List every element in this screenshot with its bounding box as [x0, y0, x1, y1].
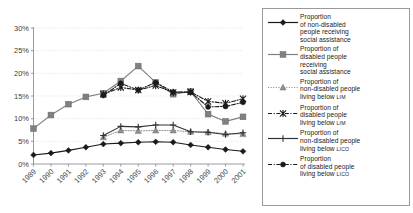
datapoint-nondisabled-social-assistance-1993: [100, 141, 106, 147]
datapoint-nondisabled-lico-1995-plus: [135, 124, 141, 130]
x-tick-label-1996: 1996: [142, 167, 160, 185]
legend-item-nondisabled-social-assistance[interactable]: Proportionof non-disabledpeople receivin…: [266, 13, 406, 43]
legend-label-line: Proportion of: [300, 45, 351, 53]
legend-marker-disabled-lico: [266, 156, 300, 167]
legend-label-line: receiving: [300, 61, 351, 69]
legend-label-abbrev: LICO: [337, 171, 350, 177]
datapoint-disabled-lico-2001: [241, 100, 246, 105]
datapoint-disabled-social-assistance-1992: [83, 94, 89, 100]
legend-label-line: non-disabled people: [300, 85, 360, 93]
legend-marker-nondisabled-lico: [266, 130, 300, 141]
datapoint-disabled-lico-1994-circle: [118, 81, 123, 86]
legend-key-disabled-lim: [266, 108, 300, 119]
legend-label-line: Proportion of: [300, 78, 360, 86]
legend-label-line: non-disabled people: [300, 137, 360, 145]
legend-label-nondisabled-social-assistance: Proportionof non-disabledpeople receivin…: [300, 13, 351, 43]
datapoint-nondisabled-social-assistance-1991-diamond: [66, 148, 72, 154]
datapoint-nondisabled-social-assistance-1999-diamond: [205, 144, 211, 150]
legend-item-disabled-lim[interactable]: Proportion ofdisabled peopleliving below…: [266, 104, 406, 128]
legend-label-line: Proportion: [300, 155, 354, 163]
x-tick-label-1997: 1997: [160, 167, 178, 185]
series-line-disabled-social-assistance: [34, 66, 244, 129]
legend-label-line: disabled people: [300, 111, 347, 119]
legend-label-line: of disabled people: [300, 163, 354, 171]
datapoint-disabled-social-assistance-1989: [31, 126, 37, 132]
datapoint-disabled-lico-1995: [136, 88, 141, 93]
datapoint-disabled-social-assistance-2001: [240, 114, 246, 120]
series-disabled-lico: [101, 80, 246, 109]
datapoint-disabled-lico-1999-circle: [206, 104, 211, 109]
datapoint-disabled-lico-1995-circle: [136, 88, 141, 93]
legend-label-disabled-social-assistance: Proportion ofdisabled peoplereceivingsoc…: [300, 45, 351, 75]
legend-label-line: social assistance: [300, 68, 351, 76]
datapoint-disabled-lico-1996: [153, 80, 158, 85]
legend-label-line: people receiving: [300, 28, 351, 36]
datapoint-disabled-social-assistance-1990: [48, 112, 54, 118]
legend-label-abbrev: LIM: [337, 120, 346, 126]
legend-label-line: Proportion of: [300, 104, 347, 112]
datapoint-disabled-lico-2000: [223, 104, 228, 109]
y-tick-label-5: 5%: [18, 137, 29, 146]
datapoint-disabled-social-assistance-1991-square: [66, 101, 72, 107]
series-nondisabled-social-assistance: [31, 139, 246, 158]
legend-label-line: disabled people: [300, 53, 351, 61]
datapoint-nondisabled-social-assistance-1992-diamond: [83, 144, 89, 150]
datapoint-nondisabled-lico-1994: [118, 123, 124, 129]
datapoint-nondisabled-social-assistance-1997: [170, 139, 176, 145]
legend-label-line: living below LICO: [300, 170, 354, 179]
legend-key-marker-nondisabled-lim: [280, 84, 286, 90]
legend-marker-disabled-lim: [266, 105, 300, 116]
legend-label-abbrev: LICO: [337, 146, 350, 152]
datapoint-nondisabled-social-assistance-2001: [240, 148, 246, 154]
datapoint-nondisabled-social-assistance-1995-diamond: [135, 139, 141, 145]
legend-key-marker-nondisabled-lico: [280, 136, 286, 142]
x-tick-label-1998: 1998: [177, 167, 195, 185]
datapoint-disabled-lico-1999: [206, 104, 211, 109]
series-nondisabled-lim: [100, 127, 246, 139]
datapoint-disabled-social-assistance-1991: [66, 101, 72, 107]
datapoint-nondisabled-social-assistance-1989: [31, 152, 37, 158]
legend-key-disabled-lico: [266, 159, 300, 170]
legend-key-marker-nondisabled-lim-triangle: [280, 84, 286, 90]
legend-key-marker-nondisabled-social-assistance: [280, 20, 286, 26]
legend-key-marker-disabled-lico: [281, 162, 286, 167]
datapoint-nondisabled-social-assistance-1993-diamond: [100, 141, 106, 147]
legend-item-disabled-lico[interactable]: Proportionof disabled peopleliving below…: [266, 155, 406, 179]
legend-label-abbrev: LIM: [337, 94, 346, 100]
datapoint-disabled-lico-1998-circle: [188, 90, 193, 95]
datapoint-nondisabled-lico-1997: [170, 122, 176, 128]
legend-key-nondisabled-social-assistance: [266, 17, 300, 28]
datapoint-disabled-social-assistance-2000-square: [223, 118, 229, 124]
legend-label-line: living below LIM: [300, 119, 347, 128]
datapoint-disabled-social-assistance-1995-square: [135, 63, 141, 69]
datapoint-nondisabled-lico-1996-plus: [153, 122, 159, 128]
legend-item-nondisabled-lim[interactable]: Proportion ofnon-disabled peopleliving b…: [266, 78, 406, 102]
x-tick-label-1994: 1994: [107, 167, 125, 185]
legend-key-nondisabled-lim: [266, 82, 300, 93]
datapoint-disabled-lico-1994: [118, 81, 123, 86]
legend-label-disabled-lim: Proportion ofdisabled peopleliving below…: [300, 104, 347, 128]
legend-item-nondisabled-lico[interactable]: Proportion ofnon-disabled peopleliving b…: [266, 129, 406, 153]
x-tick-label-1990: 1990: [37, 167, 55, 185]
datapoint-disabled-lico-1993: [101, 93, 106, 98]
datapoint-disabled-lico-2001-circle: [241, 100, 246, 105]
datapoint-nondisabled-lico-2000: [222, 131, 228, 137]
legend-label-line: living below LIM: [300, 93, 360, 102]
datapoint-nondisabled-social-assistance-1992: [83, 144, 89, 150]
y-tick-label-25: 25%: [14, 46, 29, 55]
datapoint-disabled-lico-1997: [171, 89, 176, 94]
datapoint-nondisabled-social-assistance-1995: [135, 139, 141, 145]
legend-label-line: Proportion of: [300, 129, 360, 137]
legend-key-marker-disabled-social-assistance-square: [280, 52, 286, 58]
datapoint-disabled-social-assistance-2001-square: [240, 114, 246, 120]
legend-item-disabled-social-assistance[interactable]: Proportion ofdisabled peoplereceivingsoc…: [266, 45, 406, 75]
legend-key-marker-nondisabled-social-assistance-diamond: [280, 20, 286, 26]
legend-key-marker-nondisabled-lico-plus: [280, 136, 286, 142]
datapoint-nondisabled-social-assistance-1998: [188, 142, 194, 148]
datapoint-nondisabled-social-assistance-1990: [48, 150, 54, 156]
x-tick-label-1993: 1993: [90, 167, 108, 185]
x-tick-label-1991: 1991: [55, 167, 73, 185]
datapoint-disabled-social-assistance-1995: [135, 63, 141, 69]
y-tick-label-0: 0%: [18, 160, 29, 169]
datapoint-nondisabled-social-assistance-1996-diamond: [153, 139, 159, 145]
